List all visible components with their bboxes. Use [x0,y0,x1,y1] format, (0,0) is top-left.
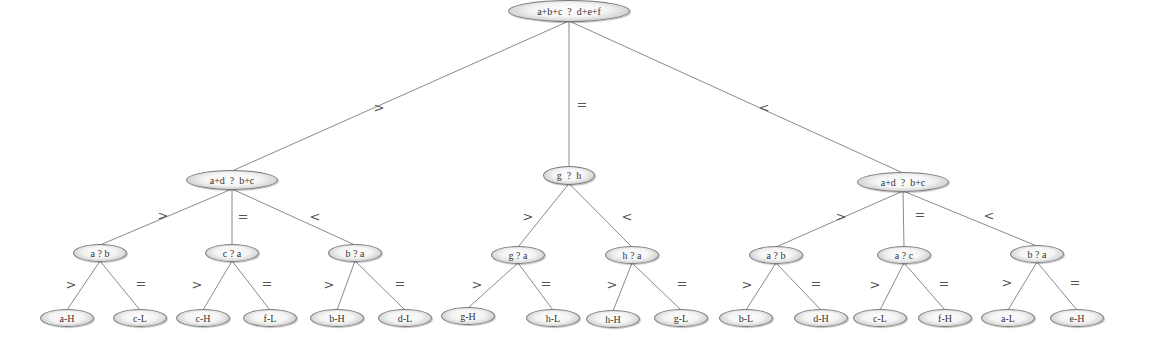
edge-label: > [472,277,483,292]
leaf-node-l16: e-H [1050,309,1104,327]
leaf-node-l10: g-L [654,309,708,327]
decision-node-R1: a ? b [749,246,803,264]
edge-label: > [607,277,618,292]
decision-node-R3: b ? a [1010,245,1064,263]
leaf-node-l1: a-H [40,309,94,327]
decision-node-M1: g ? a [491,246,545,264]
leaf-node-l3: c-H [176,309,230,327]
edge-label: > [836,209,847,224]
decision-node-L1: a ? b [73,244,127,262]
decision-node-L: a+d ? b+c [186,170,278,190]
edge-label: = [262,276,273,291]
edge-label: = [939,276,950,291]
edge-label: = [541,276,552,291]
edge-label: < [984,208,995,223]
decision-node-R: a+d ? b+c [857,172,949,192]
leaf-node-l9: h-H [586,310,640,328]
decision-node-root: a+b+c ? d+e+f [508,0,630,22]
edge-label: = [395,276,406,291]
edge-root-R [569,21,903,173]
edge-M2-l10 [632,263,681,310]
decision-node-L2: c ? a [205,244,259,262]
edge-label: = [1070,275,1081,290]
edge-L-L3 [232,189,355,245]
edge-label: > [192,277,203,292]
leaf-node-l11: b-L [719,309,773,327]
leaf-node-l7: g-H [441,307,495,325]
leaf-node-l6: d-L [378,309,432,327]
edge-R2-l13 [880,263,904,310]
edge-label: = [811,276,822,291]
edge-label: = [677,276,688,291]
leaf-node-l13: c-L [853,309,907,327]
leaf-node-l5: b-H [310,309,364,327]
edge-label: > [158,208,169,223]
edge-L3-l5 [337,261,355,310]
edge-label: < [759,100,770,115]
decision-node-M: g ? h [543,166,595,185]
leaf-node-l15: a-L [981,309,1035,327]
edge-L2-l3 [203,261,232,310]
edge-L1-l2 [100,261,140,310]
leaf-node-l12: d-H [794,309,848,327]
edge-label: = [915,207,926,222]
edge-label: > [324,277,335,292]
edge-label: > [66,277,77,292]
decision-node-M2: h ? a [605,246,659,264]
edge-root-L [232,21,569,171]
leaf-node-l8: h-L [526,309,580,327]
edge-label: = [238,209,249,224]
edge-label: > [742,277,753,292]
edge-label: > [374,100,385,115]
leaf-node-l4: f-L [243,309,297,327]
edge-label: > [523,209,534,224]
edge-label: > [1002,275,1013,290]
decision-node-R2: a ? c [877,246,931,264]
edge-label: = [136,276,147,291]
leaf-node-l14: f-H [918,309,972,327]
edge-label: > [870,277,881,292]
decision-node-L3: b ? a [328,244,382,262]
edge-label: < [622,209,633,224]
edge-label: < [310,209,321,224]
leaf-node-l2: c-L [113,309,167,327]
edge-R-R2 [903,191,904,247]
edge-label: = [577,97,588,112]
